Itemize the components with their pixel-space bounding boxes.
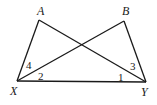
vertex-labels: A B X Y — [9, 4, 149, 99]
angle-label-1: 1 — [118, 71, 124, 83]
angle-label-4: 4 — [26, 59, 32, 71]
vertex-label-b: B — [122, 4, 130, 18]
segment-ay — [39, 20, 146, 82]
segments — [17, 20, 146, 82]
vertex-label-y: Y — [141, 85, 149, 99]
segment-by — [124, 21, 146, 82]
angle-labels: 4 2 1 3 — [26, 59, 136, 83]
segment-ax — [17, 20, 39, 81]
angle-label-2: 2 — [38, 70, 44, 82]
geometry-diagram: A B X Y 4 2 1 3 — [0, 0, 157, 105]
segment-bx — [17, 21, 124, 81]
vertex-label-a: A — [36, 4, 45, 18]
segment-xy — [17, 81, 146, 82]
angle-label-3: 3 — [130, 60, 136, 72]
vertex-label-x: X — [9, 84, 18, 98]
